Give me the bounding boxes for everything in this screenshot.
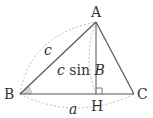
label-height: c sin B — [57, 62, 105, 78]
diagram-svg: A B C H c a c sin B — [0, 0, 153, 118]
label-h: H — [91, 98, 103, 114]
height-func: sin — [65, 62, 95, 78]
label-a: A — [90, 4, 102, 20]
height-angle: B — [93, 62, 104, 78]
label-side-c: c — [44, 42, 52, 58]
right-angle-marker — [96, 88, 102, 94]
height-brace — [89, 22, 96, 94]
height-prefix: c — [57, 62, 65, 78]
side-ac — [96, 22, 134, 94]
label-b: B — [4, 86, 14, 102]
label-c: C — [137, 86, 148, 102]
label-side-a: a — [69, 101, 77, 117]
side-ab — [20, 22, 96, 94]
triangle-diagram: A B C H c a c sin B — [0, 0, 153, 118]
